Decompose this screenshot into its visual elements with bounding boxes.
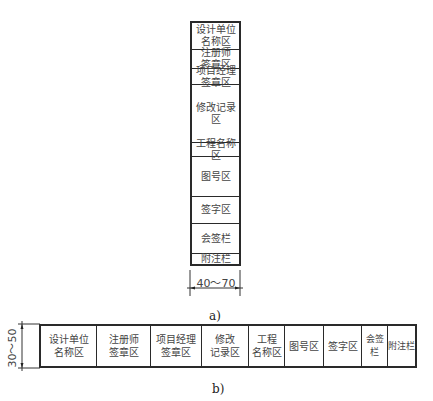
col-drawing-number: 图号区 [285, 326, 324, 366]
row-signature: 签字区 [192, 197, 239, 224]
col-revision-record: 修改 记录区 [202, 326, 249, 366]
caption-b: b) [212, 382, 224, 396]
horizontal-title-block: 设计单位 名称区 注册师 签章区 项目经理 签章区 修改 记录区 工程 名称区 … [39, 324, 417, 368]
row-countersign: 会签栏 [192, 224, 239, 254]
width-dimension-label: 40～70 [196, 274, 236, 290]
caption-a: a) [209, 309, 221, 323]
row-project-manager: 项目经理 签章区 [192, 69, 239, 85]
row-drawing-number: 图号区 [192, 157, 239, 197]
row-design-unit: 设计单位 名称区 [192, 23, 239, 50]
row-project-name: 工程名称区 [192, 143, 239, 157]
vertical-title-block: 设计单位 名称区 注册师 签章区 项目经理 签章区 修改记录区 工程名称区 图号… [190, 21, 241, 266]
col-design-unit: 设计单位 名称区 [41, 326, 97, 366]
col-project-manager: 项目经理 签章区 [151, 326, 202, 366]
height-dimension-label: 30～50 [3, 328, 19, 368]
col-countersign: 会签栏 [362, 326, 388, 366]
col-project-name: 工程 名称区 [249, 326, 285, 366]
col-notes: 附注栏 [388, 326, 415, 366]
row-revision-record: 修改记录区 [192, 85, 239, 143]
row-notes: 附注栏 [192, 254, 239, 264]
col-registered-engineer: 注册师 签章区 [97, 326, 151, 366]
col-signature: 签字区 [324, 326, 362, 366]
